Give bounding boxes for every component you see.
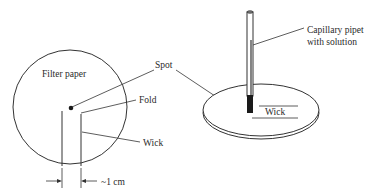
spot-label: Spot	[155, 60, 173, 70]
fold-leader	[81, 100, 136, 113]
filter-paper-disk: Wick	[203, 84, 319, 139]
pipet-label-line2: with solution	[307, 37, 357, 47]
filter-paper-label: Filter paper	[42, 69, 87, 79]
wick-label: Wick	[143, 138, 163, 148]
fold-label: Fold	[139, 95, 157, 105]
disk-wick-label: Wick	[265, 107, 285, 117]
pipet-label-line1: Capillary pipet	[307, 25, 364, 35]
filter-paper-flat: Filter paper ~1 cm	[13, 50, 127, 188]
pipet-leader	[253, 28, 304, 45]
chromatography-setup-diagram: Filter paper ~1 cm Spot Fold Wick Wick	[0, 0, 381, 196]
width-label: ~1 cm	[101, 177, 125, 187]
wick-leader	[82, 132, 140, 142]
solution-fill	[247, 95, 253, 113]
